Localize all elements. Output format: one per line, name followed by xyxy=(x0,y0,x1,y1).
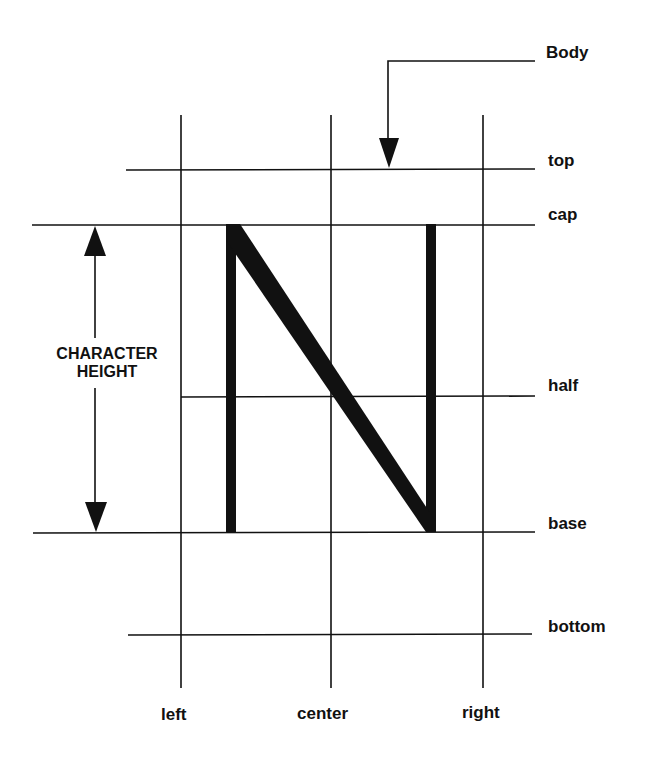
body-pointer-line xyxy=(388,61,535,140)
label-left: left xyxy=(161,706,187,723)
label-center: center xyxy=(297,705,348,722)
label-cap: cap xyxy=(548,206,577,223)
arrow-down-icon xyxy=(85,502,107,532)
label-right: right xyxy=(462,704,500,721)
character-height-label-line1: CHARACTER xyxy=(40,345,174,363)
body-arrowhead-icon xyxy=(379,138,399,168)
label-base: base xyxy=(548,515,587,532)
horizontal-line-bottom xyxy=(128,634,532,635)
horizontal-line-top xyxy=(126,169,535,170)
character-height-label-line2: HEIGHT xyxy=(40,363,174,381)
label-bottom: bottom xyxy=(548,618,606,635)
character-height-label: CHARACTER HEIGHT xyxy=(40,345,174,382)
label-half: half xyxy=(548,377,578,394)
arrow-up-icon xyxy=(84,226,106,256)
label-top: top xyxy=(548,152,574,169)
label-body: Body xyxy=(546,44,589,61)
horizontal-line-base xyxy=(33,532,535,533)
